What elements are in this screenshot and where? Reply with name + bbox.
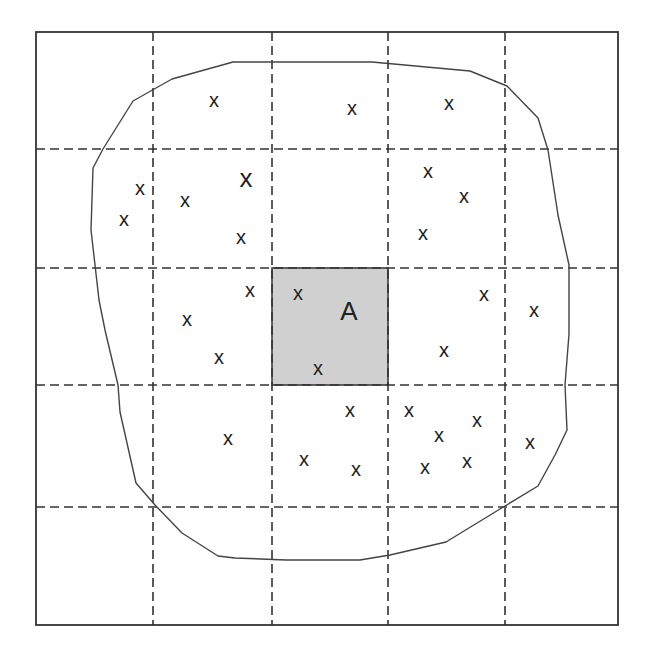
x-marker-icon: x	[135, 177, 145, 199]
x-marker-icon: x	[351, 458, 361, 480]
x-marker-icon: x	[182, 308, 192, 330]
x-marker-icon: x	[345, 399, 355, 421]
x-marker-icon: x	[214, 346, 224, 368]
highlighted-quadrat	[272, 268, 388, 385]
x-marker-icon: x	[418, 222, 428, 244]
x-marker-icon: x	[313, 357, 323, 379]
x-marker-icon: x	[119, 208, 129, 230]
quadrat-diagram: xxxxxxxxxxxxxxxxxxxxxxxxxxxxx A	[0, 0, 647, 661]
x-marker-icon: x	[299, 448, 309, 470]
x-marker-icon: x	[209, 89, 219, 111]
quadrat-label-a: A	[340, 296, 358, 326]
diagram-canvas: xxxxxxxxxxxxxxxxxxxxxxxxxxxxx A	[0, 0, 647, 661]
x-marker-icon: x	[423, 160, 433, 182]
x-marker-icon: x	[462, 450, 472, 472]
x-marker-icon: x	[180, 189, 190, 211]
x-marker-icon: x	[479, 283, 489, 305]
x-marker-icon: x	[420, 456, 430, 478]
x-marker-icon: x	[525, 431, 535, 453]
x-marker-icon: x	[293, 282, 303, 304]
x-marker-icon: x	[444, 92, 454, 114]
x-marker-icon: x	[529, 299, 539, 321]
x-marker-icon: x	[434, 424, 444, 446]
x-marker-icon: x	[404, 399, 414, 421]
x-marker-icon: x	[347, 97, 357, 119]
x-marker-icon: x	[236, 226, 246, 248]
highlight-cell-fill	[272, 268, 388, 385]
x-marker-icon: x	[439, 339, 449, 361]
x-marker-icon: x	[240, 163, 253, 193]
x-marker-icon: x	[245, 279, 255, 301]
x-marker-icon: x	[459, 185, 469, 207]
x-marker-icon: x	[223, 427, 233, 449]
x-marker-icon: x	[472, 409, 482, 431]
